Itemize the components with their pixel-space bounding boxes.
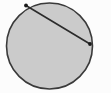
circle-shape xyxy=(7,3,93,89)
circle-chord-diagram xyxy=(0,0,111,93)
chord-endpoint-right-dot xyxy=(88,42,92,46)
chord-endpoint-upper-left-dot xyxy=(24,4,28,8)
figure-canvas xyxy=(0,0,111,93)
